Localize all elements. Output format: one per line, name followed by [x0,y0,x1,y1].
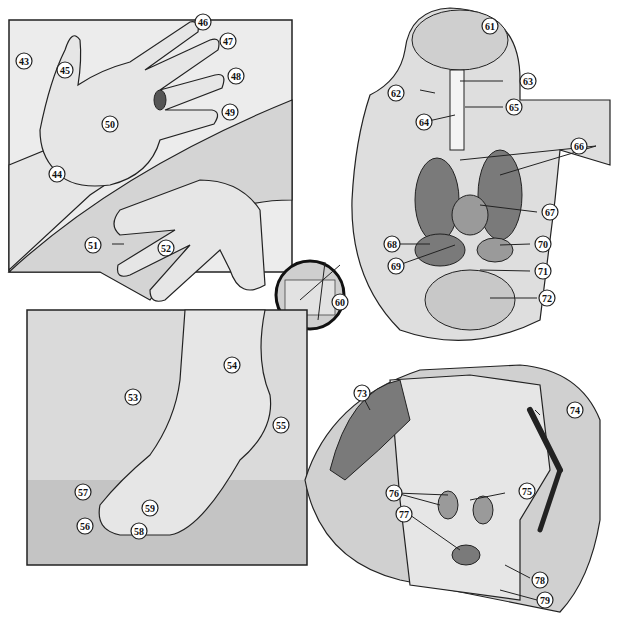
svg-text:59: 59 [145,503,155,514]
label-63: 63 [520,73,536,89]
label-75: 75 [519,483,535,499]
svg-text:77: 77 [399,509,409,520]
svg-text:52: 52 [161,243,171,254]
label-47: 47 [220,33,236,49]
label-48: 48 [228,68,244,84]
svg-text:76: 76 [389,488,399,499]
svg-text:67: 67 [545,207,555,218]
svg-text:72: 72 [542,293,552,304]
label-72: 72 [539,290,555,306]
stomach [477,238,513,262]
label-58: 58 [131,523,147,539]
label-59: 59 [142,500,158,516]
svg-text:63: 63 [523,76,533,87]
svg-text:66: 66 [574,141,584,152]
label-61: 61 [482,18,498,34]
label-70: 70 [535,236,551,252]
svg-text:45: 45 [60,65,70,76]
label-76: 76 [386,485,402,501]
spine [450,70,464,150]
svg-text:62: 62 [391,88,401,99]
svg-text:55: 55 [276,420,286,431]
label-66: 66 [571,138,587,154]
label-71: 71 [535,263,551,279]
svg-text:58: 58 [134,526,144,537]
label-77: 77 [396,506,412,522]
label-53: 53 [125,389,141,405]
label-50: 50 [102,116,118,132]
label-65: 65 [506,99,522,115]
svg-text:61: 61 [485,21,495,32]
svg-text:56: 56 [80,521,90,532]
right-lung [415,158,459,242]
label-54: 54 [224,357,240,373]
svg-text:47: 47 [223,36,233,47]
svg-text:78: 78 [535,575,545,586]
label-60: 60 [332,294,348,310]
label-43: 43 [16,53,32,69]
label-69: 69 [388,258,404,274]
label-51: 51 [85,237,101,253]
label-73: 73 [354,385,370,401]
organs-panel [352,8,610,340]
skeleton-panel [305,365,600,612]
foot-panel [27,310,307,565]
left-kidney [473,496,493,524]
label-67: 67 [542,204,558,220]
svg-text:43: 43 [19,56,29,67]
svg-text:71: 71 [538,266,548,277]
label-46: 46 [195,14,211,30]
svg-text:57: 57 [78,487,88,498]
svg-text:68: 68 [387,239,397,250]
svg-text:46: 46 [198,17,208,28]
label-62: 62 [388,85,404,101]
anatomy-illustration: 43 44 45 46 47 48 49 50 51 52 53 54 55 5… [0,0,618,625]
label-68: 68 [384,236,400,252]
svg-text:75: 75 [522,486,532,497]
hands-panel [9,20,292,301]
label-74: 74 [567,402,583,418]
svg-text:48: 48 [231,71,241,82]
label-57: 57 [75,484,91,500]
svg-text:44: 44 [52,169,62,180]
svg-text:70: 70 [538,239,548,250]
svg-text:54: 54 [227,360,237,371]
intestines [425,270,515,330]
label-45: 45 [57,62,73,78]
svg-text:79: 79 [540,595,550,606]
label-55: 55 [273,417,289,433]
svg-text:60: 60 [335,297,345,308]
svg-text:53: 53 [128,392,138,403]
svg-text:50: 50 [105,119,115,130]
label-79: 79 [537,592,553,608]
bladder [452,545,480,565]
label-64: 64 [416,114,432,130]
ring [154,90,166,110]
svg-text:64: 64 [419,117,429,128]
heart [452,195,488,235]
label-52: 52 [158,240,174,256]
label-78: 78 [532,572,548,588]
svg-text:73: 73 [357,388,367,399]
svg-text:65: 65 [509,102,519,113]
svg-text:69: 69 [391,261,401,272]
label-56: 56 [77,518,93,534]
label-44: 44 [49,166,65,182]
svg-text:51: 51 [88,240,98,251]
label-49: 49 [222,104,238,120]
svg-text:74: 74 [570,405,580,416]
svg-text:49: 49 [225,107,235,118]
